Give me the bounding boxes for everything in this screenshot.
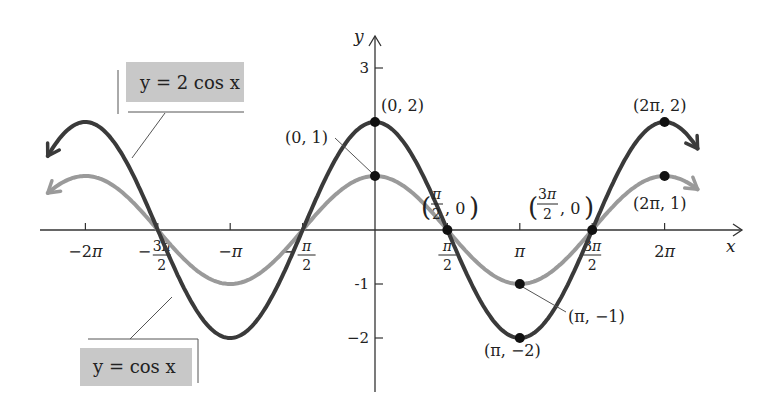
legend-cos-label: y = cos x: [92, 356, 176, 377]
point-labels: (0, 2) (0, 1) (2π, 2) (2π, 1) (π, −1) (π…: [285, 96, 687, 360]
point-label-0-2: (0, 2): [381, 96, 424, 115]
svg-text:−: −: [138, 242, 151, 261]
svg-text:, 0: , 0: [560, 199, 580, 218]
y-tick-label: 3: [359, 59, 369, 77]
legend-cos-leader: [130, 297, 172, 339]
data-point: [660, 117, 670, 127]
svg-text:π: π: [431, 186, 442, 202]
data-point: [370, 117, 380, 127]
svg-text:(: (: [421, 192, 431, 222]
svg-text:2: 2: [157, 257, 166, 273]
svg-text:, 0: , 0: [445, 199, 465, 218]
svg-text:2: 2: [588, 257, 597, 273]
data-point: [370, 171, 380, 181]
svg-text:2: 2: [443, 257, 452, 273]
x-tick-label: π: [514, 242, 526, 261]
svg-text:): ): [469, 192, 479, 222]
data-point: [515, 333, 525, 343]
point-label-0-1: (0, 1): [285, 128, 328, 147]
y-tick-label: −2: [347, 329, 369, 347]
legend-2cos: y = 2 cos x: [118, 62, 244, 158]
x-tick-label: −3π2: [138, 238, 172, 273]
y-axis-label: y: [353, 26, 364, 46]
x-tick-label: 2π: [654, 242, 675, 261]
point-label-pi-m1: (π, −1): [568, 307, 625, 326]
svg-text:π: π: [301, 238, 312, 254]
data-point: [442, 225, 452, 235]
data-point: [587, 225, 597, 235]
x-tick-label: −π: [218, 242, 242, 261]
y-tick-label: -1: [354, 275, 369, 293]
legend-2cos-leader: [132, 113, 165, 158]
point-label-pi-m2: (π, −2): [484, 341, 541, 360]
x-tick-label: −2π: [68, 242, 103, 261]
svg-text:3π: 3π: [538, 186, 557, 202]
svg-text:(: (: [528, 192, 538, 222]
point-label-pi-over-2-0: ( π 2 , 0 ): [421, 186, 479, 222]
point-label-3pi-over-2-0: ( 3π 2 , 0 ): [528, 186, 594, 222]
point-label-2pi-1: (2π, 1): [633, 194, 687, 213]
x-axis-label: x: [726, 236, 736, 256]
svg-text:2: 2: [543, 206, 552, 222]
leader-0-1: [335, 138, 372, 173]
svg-text:2: 2: [302, 257, 311, 273]
data-point: [515, 279, 525, 289]
point-label-2pi-2: (2π, 2): [633, 96, 687, 115]
cosine-chart: x y −2π−3π2−π−π2π2π3π22π3-1−2 y = 2 cos …: [0, 0, 762, 413]
data-point: [660, 171, 670, 181]
svg-text:2: 2: [432, 206, 441, 222]
svg-text:): ): [584, 192, 594, 222]
legend-2cos-label: y = 2 cos x: [139, 72, 240, 93]
legend-cos: y = cos x: [80, 297, 198, 386]
